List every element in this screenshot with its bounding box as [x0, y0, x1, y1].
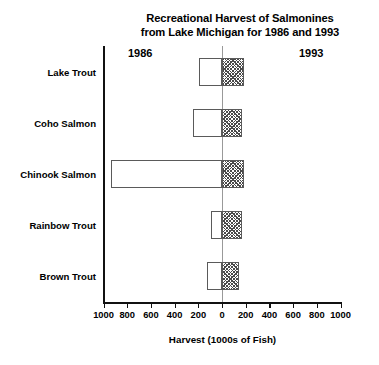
chart-title-line-2: from Lake Michigan for 1986 and 1993 — [112, 26, 368, 40]
x-axis-tick — [269, 303, 270, 308]
x-axis-tick — [317, 303, 318, 308]
category-label: Rainbow Trout — [29, 220, 96, 231]
bar-row: Lake Trout — [0, 46, 379, 97]
category-label: Chinook Salmon — [20, 168, 96, 179]
chart-figure: Recreational Harvest of Salmonines from … — [0, 0, 379, 365]
bar-row: Rainbow Trout — [0, 200, 379, 251]
x-axis-tick-label: 0 — [219, 310, 224, 320]
bar-1986 — [199, 58, 222, 86]
x-axis-tick-label: 200 — [238, 310, 254, 320]
x-axis-tick — [293, 303, 294, 308]
bar-1993 — [222, 109, 242, 137]
x-axis-title: Harvest (1000s of Fish) — [103, 334, 342, 345]
category-label: Coho Salmon — [34, 117, 96, 128]
x-axis-tick-label: 800 — [309, 310, 325, 320]
bar-row: Brown Trout — [0, 251, 379, 302]
x-axis-tick-label: 800 — [119, 310, 135, 320]
x-axis-tick — [175, 303, 176, 308]
x-axis-tick-label: 400 — [262, 310, 278, 320]
x-axis-tick-label: 600 — [143, 310, 159, 320]
x-axis-tick — [104, 303, 105, 308]
page-title: Recreational Harvest of Salmonines from … — [112, 12, 368, 39]
bar-row: Coho Salmon — [0, 97, 379, 148]
bar-1993 — [222, 262, 239, 290]
bar-1986 — [193, 109, 222, 137]
category-label: Lake Trout — [47, 66, 96, 77]
bar-1993 — [222, 58, 244, 86]
bar-1993 — [222, 211, 242, 239]
x-axis-tick — [151, 303, 152, 308]
x-axis-tick-label: 600 — [285, 310, 301, 320]
x-axis-tick-label: 400 — [167, 310, 183, 320]
x-axis-tick-label: 200 — [191, 310, 207, 320]
bar-row: Chinook Salmon — [0, 148, 379, 199]
x-axis-tick-label: 1000 — [93, 310, 114, 320]
bar-1986 — [211, 211, 222, 239]
chart-title-line-1: Recreational Harvest of Salmonines — [146, 12, 333, 24]
x-axis-tick — [198, 303, 199, 308]
category-label: Brown Trout — [40, 271, 97, 282]
x-axis-tick — [222, 303, 223, 308]
x-axis-tick — [246, 303, 247, 308]
x-axis-tick-label: 1000 — [330, 310, 351, 320]
bar-1986 — [207, 262, 222, 290]
bar-1993 — [222, 160, 244, 188]
x-axis-tick — [341, 303, 342, 308]
plot-area: Lake TroutCoho SalmonChinook SalmonRainb… — [0, 46, 379, 302]
x-axis-tick — [127, 303, 128, 308]
bar-1986 — [111, 160, 222, 188]
